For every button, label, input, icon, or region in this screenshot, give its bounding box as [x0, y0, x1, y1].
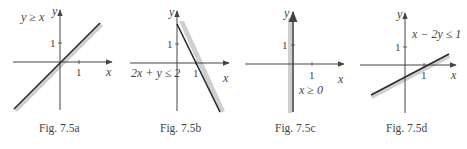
figure-caption: Fig. 7.5d	[386, 122, 427, 135]
boundary-line	[177, 24, 220, 112]
inequality-label: y ≥ x	[20, 10, 45, 24]
figure-caption: Fig. 7.5a	[39, 122, 80, 135]
figure-caption: Fig. 7.5b	[160, 122, 201, 135]
y-tick-label: 1	[50, 37, 56, 49]
x-axis-label: x	[337, 72, 344, 86]
x-axis-label: x	[450, 68, 457, 82]
y-tick-label: 1	[167, 38, 173, 50]
y-axis-label: y	[51, 4, 58, 18]
figure-7-5b: y x 1 1 2x + y ≤ 2 Fig. 7.5b	[130, 5, 229, 135]
y-axis-label: y	[283, 6, 290, 20]
figure-caption: Fig. 7.5c	[275, 122, 316, 135]
boundary-line	[14, 23, 100, 109]
figure-7-5c: y x 1 1 x ≥ 0 Fig. 7.5c	[245, 6, 344, 135]
boundary-line	[371, 54, 449, 95]
shaded-region	[179, 21, 225, 113]
y-axis-label: y	[396, 7, 403, 21]
inequality-label: x − 2y ≤ 1	[411, 27, 461, 41]
y-tick-label: 1	[282, 39, 288, 51]
x-tick-label: 1	[421, 69, 427, 81]
figure-7-5d: y x 1 1 x − 2y ≤ 1 Fig. 7.5d	[360, 7, 461, 135]
inequality-label: x ≥ 0	[298, 83, 323, 97]
x-tick-label: 1	[309, 69, 315, 81]
y-axis-label: y	[168, 5, 175, 19]
inequality-label: 2x + y ≤ 2	[131, 66, 180, 80]
x-tick-label: 1	[193, 67, 199, 79]
x-axis-label: x	[222, 71, 229, 85]
x-axis-label: x	[105, 65, 112, 79]
x-tick-label: 1	[76, 66, 82, 78]
figure-7-5a: y ≥ x y x 1 1 Fig. 7.5a	[13, 4, 112, 135]
shaded-region	[371, 54, 450, 99]
shaded-region	[14, 23, 103, 112]
y-tick-label: 1	[395, 41, 401, 53]
shaded-region	[288, 18, 292, 113]
figures-canvas: y ≥ x y x 1 1 Fig. 7.5a y x 1 1 2x + y ≤…	[0, 0, 467, 149]
